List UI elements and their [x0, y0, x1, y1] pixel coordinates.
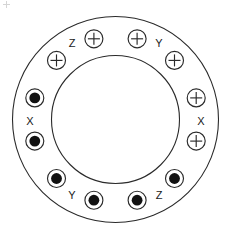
slot-group	[26, 30, 205, 209]
dot-icon-7	[89, 195, 100, 206]
slot-6-dot-phase-z[interactable]	[128, 191, 146, 209]
slot-5-dot-phase-z[interactable]	[166, 170, 184, 188]
phase-label-y-top: Y	[155, 37, 163, 49]
dot-icon-5	[169, 173, 180, 184]
phase-label-y-bottom: Y	[68, 189, 76, 201]
slot-8-dot-phase-y[interactable]	[48, 170, 66, 188]
slot-1-cross-phase-y[interactable]	[128, 30, 146, 48]
dot-icon-9	[29, 136, 40, 147]
dot-icon-6	[132, 195, 143, 206]
phase-label-z-top: Z	[69, 37, 76, 49]
slot-12-cross-phase-z[interactable]	[85, 30, 103, 48]
slot-3-cross-phase-x[interactable]	[187, 89, 205, 107]
outer-stator-circle	[13, 17, 219, 223]
slot-2-cross-phase-y[interactable]	[166, 51, 184, 69]
stator-cross-section-svg: Z Y X X Y Z	[0, 0, 231, 238]
slot-7-dot-phase-y[interactable]	[85, 191, 103, 209]
stator-winding-diagram: Z Y X X Y Z	[0, 0, 231, 238]
slot-9-dot-phase-x[interactable]	[26, 132, 44, 150]
slot-11-cross-phase-z[interactable]	[48, 51, 66, 69]
dot-icon-10	[29, 93, 40, 104]
slot-10-dot-phase-x[interactable]	[26, 89, 44, 107]
phase-label-x-left: X	[26, 115, 34, 127]
phase-label-x-right: X	[197, 115, 205, 127]
dot-icon-8	[51, 173, 62, 184]
slot-4-cross-phase-x[interactable]	[187, 132, 205, 150]
inner-bore-circle	[52, 56, 180, 184]
phase-label-z-bottom: Z	[156, 189, 163, 201]
